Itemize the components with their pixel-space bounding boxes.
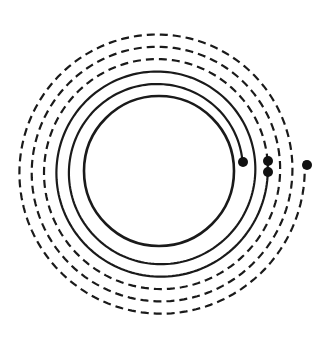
- endpoint-dots: [238, 156, 312, 177]
- dashed-spiral: [19, 34, 304, 313]
- endpoint-dot: [263, 156, 273, 166]
- spiral-diagram: [0, 0, 325, 340]
- endpoint-dot: [238, 157, 248, 167]
- inner-circle: [84, 96, 234, 246]
- endpoint-dot: [263, 167, 273, 177]
- endpoint-dot: [302, 160, 312, 170]
